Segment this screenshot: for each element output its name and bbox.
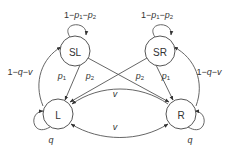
node-r: R bbox=[166, 99, 196, 129]
label-l-to-r: v bbox=[113, 122, 118, 132]
label-sl-self-loop: 1−p1−p2 bbox=[64, 10, 97, 20]
label-sl-to-r: p2 bbox=[85, 71, 95, 81]
edge-l-to-r bbox=[71, 124, 168, 138]
node-l-label: L bbox=[55, 110, 61, 121]
label-r-to-l: v bbox=[113, 89, 118, 99]
node-sr: SR bbox=[145, 36, 175, 66]
node-sl-label: SL bbox=[69, 47, 82, 58]
label-l-to-sl: 1−q−v bbox=[7, 67, 33, 77]
label-sr-self-loop: 1−p1−p2 bbox=[141, 10, 174, 20]
label-l-self-loop: q bbox=[48, 135, 53, 145]
edge-sr-self-loop bbox=[153, 25, 171, 37]
edge-sl-self-loop bbox=[68, 25, 86, 37]
label-sr-to-l: p2 bbox=[135, 71, 145, 81]
node-sr-label: SR bbox=[153, 47, 167, 58]
edge-r-to-l bbox=[72, 89, 168, 104]
node-r-label: R bbox=[177, 110, 184, 121]
label-sl-to-l: p1 bbox=[57, 71, 67, 81]
state-transition-diagram: SL SR L R 1−p1−p2 1−p1−p2 1−q−v 1−q−v p1… bbox=[0, 0, 226, 149]
label-r-to-sr: 1−q−v bbox=[196, 67, 222, 77]
edge-sl-to-l bbox=[65, 65, 80, 100]
label-sr-to-r: p1 bbox=[161, 71, 171, 81]
label-r-self-loop: q bbox=[187, 135, 192, 145]
node-l: L bbox=[43, 99, 73, 129]
node-sl: SL bbox=[60, 36, 90, 66]
